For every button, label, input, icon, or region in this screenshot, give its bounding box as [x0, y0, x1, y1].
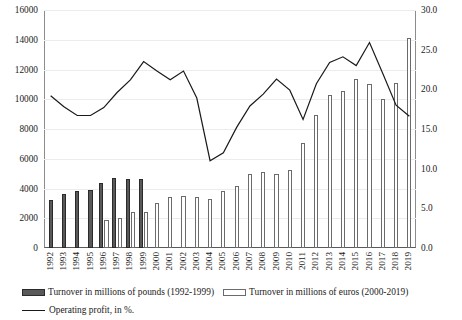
x-axis-tick-label: 2014 [338, 252, 347, 270]
x-axis-tick-label: 2005 [218, 252, 227, 270]
y-axis-left-tick-label: 8000 [0, 125, 38, 134]
legend-swatch-line-icon [22, 310, 45, 311]
x-axis-tick-label: 1993 [59, 252, 68, 270]
x-axis-tick-label: 2013 [325, 252, 334, 270]
legend-swatch-pounds-icon [22, 289, 45, 296]
legend-swatch-euros-icon [223, 289, 246, 296]
y-axis-right-tick-label: 5.0 [421, 204, 461, 213]
x-axis-tick-label: 1995 [86, 252, 95, 270]
x-axis-tick-label: 2011 [298, 252, 307, 270]
x-axis-tick-label: 1998 [125, 252, 134, 270]
y-axis-right-tick-label: 15.0 [421, 125, 461, 134]
x-axis-tick-label: 2015 [351, 252, 360, 270]
y-axis-right-tick-label: 0.0 [421, 244, 461, 253]
y-axis-right-tick-label: 25.0 [421, 45, 461, 54]
x-axis-tick-label: 2007 [245, 252, 254, 270]
x-axis-tick-label: 2010 [285, 252, 294, 270]
x-axis-tick-label: 2008 [258, 252, 267, 270]
y-axis-left-tick-label: 4000 [0, 184, 38, 193]
x-axis-tick-label: 1999 [139, 252, 148, 270]
x-axis-tick-label: 2006 [232, 252, 241, 270]
y-axis-left-tick-label: 6000 [0, 154, 38, 163]
x-axis-tick-label: 2000 [152, 252, 161, 270]
x-axis-tick-label: 2018 [391, 252, 400, 270]
legend-row-1: Turnover in millions of pounds (1992-199… [22, 286, 452, 299]
legend-item-operating-profit[interactable]: Operating profit, in %. [22, 304, 134, 317]
x-axis-tick-label: 2004 [205, 252, 214, 270]
x-axis-tick-label: 1992 [46, 252, 55, 270]
x-axis-tick-label: 1997 [112, 252, 121, 270]
y-axis-left-tick-label: 2000 [0, 214, 38, 223]
operating-profit-polyline [51, 43, 410, 161]
legend-item-pounds[interactable]: Turnover in millions of pounds (1992-199… [22, 286, 214, 299]
x-axis-tick-label: 2003 [192, 252, 201, 270]
x-axis-tick-label: 1996 [99, 252, 108, 270]
x-axis-tick-label: 2012 [311, 252, 320, 270]
legend-label-operating-profit: Operating profit, in %. [49, 304, 134, 317]
x-axis-tick-label: 2001 [165, 252, 174, 270]
plot-area [44, 10, 416, 248]
x-axis-tick-label: 2009 [272, 252, 281, 270]
y-axis-right-tick-label: 30.0 [421, 6, 461, 15]
legend-label-pounds: Turnover in millions of pounds (1992-199… [48, 286, 214, 299]
y-axis-left-tick-label: 16000 [0, 6, 38, 15]
y-axis-left-tick-label: 10000 [0, 95, 38, 104]
y-axis-right-tick-label: 20.0 [421, 85, 461, 94]
legend-item-euros[interactable]: Turnover in millions of euros (2000-2019… [223, 286, 408, 299]
operating-profit-line [44, 10, 416, 248]
chart-container: 0200040006000800010000120001400016000 0.… [0, 0, 462, 320]
x-axis-tick-label: 2017 [378, 252, 387, 270]
x-axis-tick-label: 2016 [365, 252, 374, 270]
y-axis-right-tick-label: 10.0 [421, 164, 461, 173]
y-axis-left-tick-label: 12000 [0, 65, 38, 74]
chart-legend: Turnover in millions of pounds (1992-199… [22, 286, 452, 317]
y-axis-left-tick-label: 14000 [0, 35, 38, 44]
x-axis-tick-label: 2002 [179, 252, 188, 270]
x-axis-tick-label: 2019 [404, 252, 413, 270]
y-axis-left-tick-label: 0 [0, 244, 38, 253]
legend-row-2: Operating profit, in %. [22, 304, 452, 317]
x-axis-tick-label: 1994 [72, 252, 81, 270]
legend-label-euros: Turnover in millions of euros (2000-2019… [249, 286, 408, 299]
